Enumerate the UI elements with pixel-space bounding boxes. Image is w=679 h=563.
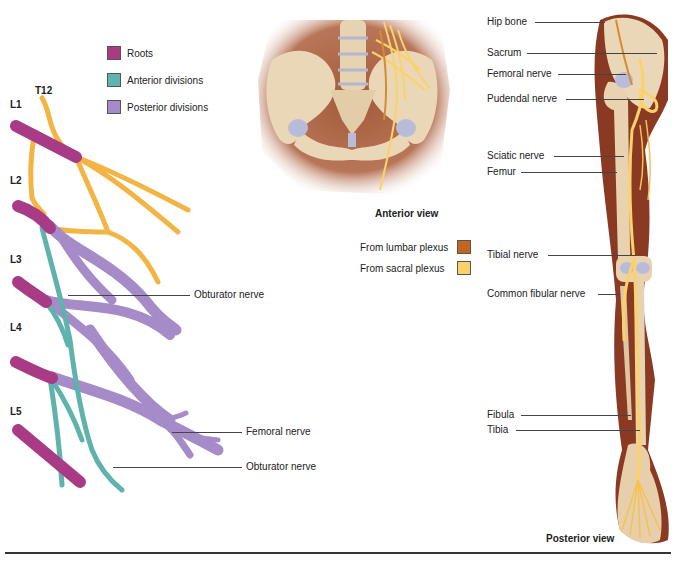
leader-line — [598, 294, 620, 295]
leg-illustration — [0, 0, 679, 563]
callout-fibula: Fibula — [487, 409, 514, 421]
leader-line — [527, 53, 657, 54]
leader-line — [548, 255, 636, 256]
leader-line — [554, 156, 624, 157]
leader-line — [521, 415, 631, 416]
bottom-divider — [5, 552, 671, 554]
callout-hip-bone: Hip bone — [487, 16, 527, 28]
leader-line — [535, 22, 605, 23]
callout-common-fibular-nerve: Common fibular nerve — [487, 288, 585, 300]
callout-pudendal-nerve: Pudendal nerve — [487, 93, 557, 105]
callout-sacrum: Sacrum — [487, 47, 521, 59]
posterior-view-caption: Posterior view — [546, 533, 614, 545]
callout-sciatic-nerve: Sciatic nerve — [487, 150, 544, 162]
callout-tibial-nerve: Tibial nerve — [487, 249, 538, 261]
callout-tibia: Tibia — [487, 424, 508, 436]
leader-line — [566, 99, 644, 100]
callout-femur: Femur — [487, 166, 516, 178]
leader-line — [558, 74, 626, 75]
callout-femoral-nerve: Femoral nerve — [487, 68, 551, 80]
leader-line — [521, 172, 617, 173]
leader-line — [516, 430, 640, 431]
